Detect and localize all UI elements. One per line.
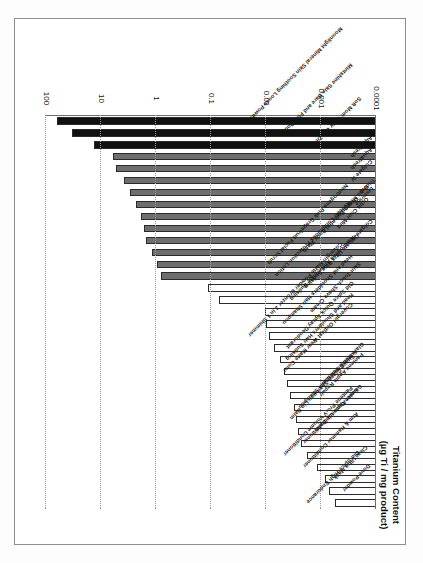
gridline bbox=[375, 115, 376, 509]
gridline bbox=[265, 115, 266, 509]
gridline bbox=[210, 115, 211, 509]
bar-row bbox=[46, 487, 376, 494]
bar bbox=[329, 487, 376, 494]
axis-title-line-1: Titanium Content bbox=[390, 395, 402, 563]
value-axis-title: Titanium Content (µg Ti / mg product) bbox=[378, 395, 402, 563]
bar-row bbox=[46, 141, 376, 148]
rotated-figure-content: Titanium Content (µg Ti / mg product) 10… bbox=[14, 18, 406, 545]
bar-row bbox=[46, 237, 376, 244]
bar bbox=[113, 153, 376, 160]
gridline bbox=[100, 115, 101, 509]
bar bbox=[57, 117, 376, 124]
bar-row bbox=[46, 356, 376, 363]
bar-row bbox=[46, 464, 376, 471]
tick-label: 1 bbox=[152, 85, 161, 113]
bar bbox=[296, 416, 376, 423]
tick-label: 0.0001 bbox=[372, 85, 381, 113]
bar-row bbox=[46, 428, 376, 435]
bar-row bbox=[46, 344, 376, 351]
tick-label: 10 bbox=[97, 85, 106, 113]
bar-row bbox=[46, 153, 376, 160]
figure-page: Titanium Content (µg Ti / mg product) 10… bbox=[0, 0, 423, 563]
bar-row bbox=[46, 165, 376, 172]
bar-row bbox=[46, 213, 376, 220]
tick-label: 0.1 bbox=[207, 85, 216, 113]
bar bbox=[124, 177, 376, 184]
gridline bbox=[155, 115, 156, 509]
bar-row bbox=[46, 189, 376, 196]
bar-chart: Titanium Content (µg Ti / mg product) 10… bbox=[14, 18, 406, 545]
bar bbox=[335, 499, 376, 506]
tick-label: 100 bbox=[42, 85, 51, 113]
axis-title-line-2: (µg Ti / mg product) bbox=[378, 395, 390, 563]
bar bbox=[94, 141, 376, 148]
bar-row bbox=[46, 117, 376, 124]
gridline bbox=[45, 115, 46, 509]
bar-row bbox=[46, 177, 376, 184]
category-label: Moonlight Mineral Skin Soothing Loose Po… bbox=[247, 26, 344, 123]
bar-row bbox=[46, 452, 376, 459]
bar-row bbox=[46, 499, 376, 506]
